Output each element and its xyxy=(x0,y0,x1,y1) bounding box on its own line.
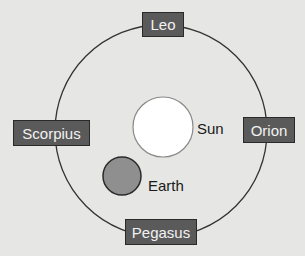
sun-label: Sun xyxy=(197,120,224,137)
earth-label: Earth xyxy=(148,177,184,194)
earth-icon xyxy=(103,157,141,195)
constellation-label-scorpius: Scorpius xyxy=(13,120,90,146)
constellation-label-leo: Leo xyxy=(142,12,184,37)
constellation-label-orion: Orion xyxy=(243,117,295,143)
sun-icon xyxy=(133,97,193,157)
constellation-label-pegasus: Pegasus xyxy=(125,219,197,245)
